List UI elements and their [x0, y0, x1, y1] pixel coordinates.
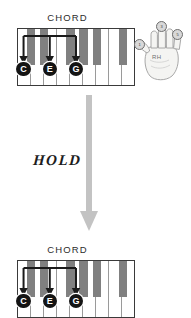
black-key [79, 29, 87, 65]
top-white-keys [18, 29, 134, 85]
black-key [119, 29, 127, 65]
note-label-c: C [16, 62, 30, 76]
black-key [27, 29, 35, 65]
note-label-e: E [43, 294, 57, 308]
bottom-white-keys [18, 261, 134, 317]
note-label-e: E [43, 62, 57, 76]
black-key [27, 261, 35, 297]
top-chord-title: CHORD [0, 12, 135, 23]
black-key [66, 29, 74, 65]
black-key [93, 29, 101, 65]
finger-badge-middle: 3 [156, 21, 167, 32]
top-piano-keyboard [17, 28, 135, 86]
finger-badge-thumb: 1 [134, 39, 145, 50]
bottom-chord-title: CHORD [0, 244, 135, 255]
black-key [40, 261, 48, 297]
note-label-c: C [16, 294, 30, 308]
black-key [93, 261, 101, 297]
black-key [40, 29, 48, 65]
hold-label: HOLD [32, 152, 82, 169]
finger-badge-pinky: 5 [172, 29, 183, 40]
hand-label: RH [152, 54, 161, 60]
bottom-piano-keyboard [17, 260, 135, 318]
black-key [79, 261, 87, 297]
black-key [66, 261, 74, 297]
black-key [119, 261, 127, 297]
